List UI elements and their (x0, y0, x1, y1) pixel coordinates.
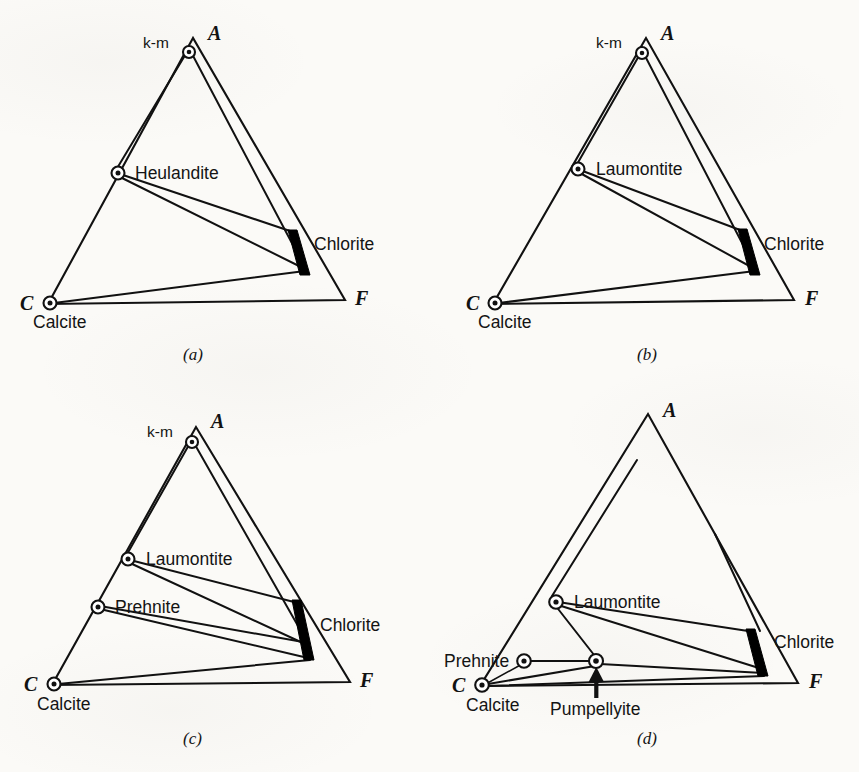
point-calcite-d (475, 678, 489, 692)
label-laumontite-b: Laumontite (596, 159, 683, 179)
point-km-a (183, 46, 195, 58)
panel-b: k-m A Laumontite Chlorite C F Calcite (b… (430, 0, 859, 386)
tie-line-km-heulandite-a (116, 52, 187, 170)
vertex-label-c-b: C (466, 292, 480, 314)
tie-line-calcite-chlorite-b (499, 271, 755, 303)
label-heulandite-a: Heulandite (135, 163, 219, 183)
point-km-c (186, 436, 198, 448)
label-km-c: k-m (147, 423, 173, 440)
inner-segment-af-d (715, 534, 760, 631)
caption-c: (c) (183, 729, 202, 748)
tie-line-calcite-chlorite-c (58, 660, 310, 684)
point-laumontite-c (122, 553, 135, 566)
chlorite-phase-bar-d (746, 629, 768, 676)
panel-b-ternary-diagram: k-m A Laumontite Chlorite C F Calcite (b… (430, 0, 859, 386)
label-prehnite-c: Prehnite (115, 597, 180, 617)
label-laumontite-c: Laumontite (146, 549, 233, 569)
inner-segment-ca-d (552, 460, 637, 596)
label-laumontite-d: Laumontite (574, 592, 661, 612)
panel-d-ternary-diagram: A Laumontite Prehnite Pumpellyite Chlori… (430, 386, 859, 772)
tie-line-calcite-chlorite-a (54, 271, 305, 303)
panel-a-ternary-diagram: k-m A Heulandite Chlorite C F Calcite (a… (0, 0, 430, 386)
tie-line-laumontite-chlorite-lower-b (580, 173, 753, 268)
point-calcite-a (44, 297, 57, 310)
label-chlorite-d: Chlorite (774, 632, 834, 652)
tie-line-km-laumontite-b (576, 54, 640, 166)
label-prehnite-d: Prehnite (444, 651, 509, 671)
label-pumpellyite-d: Pumpellyite (550, 699, 640, 719)
point-heulandite-a (112, 167, 125, 180)
point-pumpellyite-d (589, 654, 603, 668)
vertex-label-f-d: F (808, 670, 823, 692)
vertex-label-c-a: C (20, 292, 34, 314)
panel-a: k-m A Heulandite Chlorite C F Calcite (a… (0, 0, 430, 386)
chlorite-phase-bar-c (292, 600, 314, 660)
vertex-label-c-d: C (452, 674, 466, 696)
point-km-b (636, 47, 648, 59)
point-prehnite-c (92, 601, 105, 614)
label-calcite-d: Calcite (466, 695, 520, 715)
label-calcite-b: Calcite (478, 312, 532, 332)
vertex-label-c-c: C (24, 673, 38, 695)
vertex-label-f-c: F (359, 669, 374, 691)
chlorite-phase-bar-a (288, 230, 310, 275)
tie-line-km-chlorite-a (191, 52, 304, 266)
label-chlorite-b: Chlorite (764, 234, 824, 254)
tie-line-laumontite-pumpellyite-d (555, 605, 598, 660)
panel-c: k-m A Laumontite Prehnite Chlorite C F C… (0, 386, 430, 772)
label-calcite-c: Calcite (37, 694, 91, 714)
panel-c-ternary-diagram: k-m A Laumontite Prehnite Chlorite C F C… (0, 386, 430, 772)
label-km-a: k-m (143, 34, 169, 51)
caption-a: (a) (183, 345, 203, 364)
tie-line-pumpellyite-chlorite-d (600, 664, 763, 673)
tie-line-km-laumontite-c (126, 443, 190, 556)
tie-line-heulandite-chlorite-lower-a (120, 177, 303, 268)
caption-d: (d) (637, 729, 657, 748)
point-laumontite-d (549, 595, 563, 609)
panel-d: A Laumontite Prehnite Pumpellyite Chlori… (430, 386, 859, 772)
vertex-label-f-b: F (804, 287, 819, 309)
label-calcite-a: Calcite (33, 312, 87, 332)
label-km-b: k-m (596, 34, 622, 51)
vertex-label-a-apex-a: A (206, 22, 221, 44)
vertex-label-a-apex-b: A (659, 22, 674, 44)
point-calcite-b (489, 297, 502, 310)
tie-line-laumontite-chlorite-upper-b (580, 170, 740, 230)
point-laumontite-b (572, 163, 585, 176)
label-chlorite-a: Chlorite (314, 234, 374, 254)
point-calcite-c (48, 678, 61, 691)
point-prehnite-d (517, 654, 531, 668)
tie-line-km-chlorite-c (194, 443, 306, 640)
label-chlorite-c: Chlorite (320, 615, 380, 635)
vertex-label-a-apex-d: A (661, 399, 676, 421)
vertex-label-a-apex-c: A (209, 410, 224, 432)
vertex-label-f-a: F (354, 287, 369, 309)
caption-b: (b) (637, 345, 657, 364)
acf-diagram-figure: k-m A Heulandite Chlorite C F Calcite (a… (0, 0, 859, 772)
